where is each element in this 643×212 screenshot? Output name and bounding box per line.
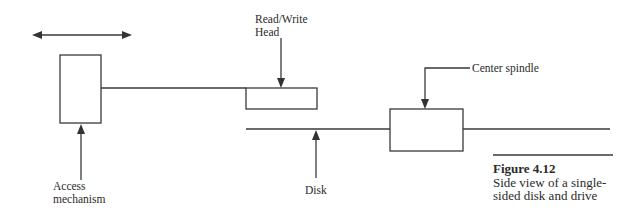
read-write-head-block: [246, 88, 317, 109]
access-mechanism-label-line2: mechanism: [53, 193, 105, 206]
read-write-head-label-line2: Head: [255, 26, 308, 39]
disk-pointer-arrowhead: [312, 130, 320, 140]
access-mechanism-label-line1: Access: [53, 180, 105, 193]
movement-arrow-right-head: [122, 31, 132, 39]
spindle-pointer-arrowhead: [421, 99, 429, 109]
movement-arrow-left-head: [32, 31, 42, 39]
caption-text-line2: sided disk and drive: [493, 189, 643, 203]
read-write-head-label-line1: Read/Write: [255, 13, 308, 26]
access-pointer-arrowhead: [77, 124, 85, 134]
figure-caption: Figure 4.12 Side view of a single- sided…: [493, 162, 643, 203]
read-write-head-label: Read/Write Head: [255, 13, 308, 38]
access-mechanism-block: [60, 55, 101, 123]
caption-text-line1: Side view of a single-: [493, 176, 643, 190]
spindle-pointer-line: [425, 68, 470, 101]
figure-number: Figure 4.12: [493, 162, 643, 176]
head-pointer-arrowhead: [277, 78, 285, 88]
access-mechanism-label: Access mechanism: [53, 180, 105, 205]
center-spindle-label: Center spindle: [472, 62, 539, 75]
disk-label: Disk: [305, 184, 327, 197]
center-spindle-block: [390, 109, 463, 151]
